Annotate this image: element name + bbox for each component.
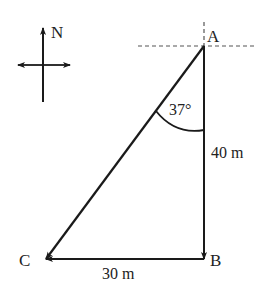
point-b-label: B xyxy=(210,251,221,270)
side-bc-label: 30 m xyxy=(102,265,135,282)
point-a-label: A xyxy=(207,27,220,46)
reference-dashed-lines xyxy=(138,22,255,46)
north-label: N xyxy=(51,23,63,42)
angle-label: 37° xyxy=(169,101,191,118)
vector-ac xyxy=(46,46,204,259)
point-c-label: C xyxy=(19,251,30,270)
side-ab-label: 40 m xyxy=(211,144,244,161)
triangle-diagram: N A B C 37° 40 m 30 m xyxy=(0,0,279,286)
